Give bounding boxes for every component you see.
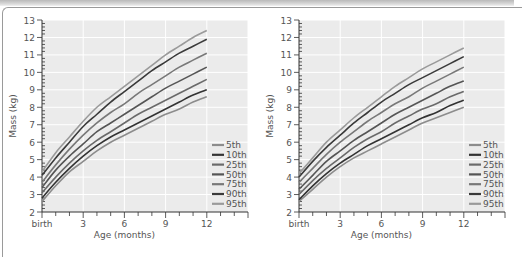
y-tick-label: 10: [281, 68, 293, 78]
x-tick-label: birth: [31, 219, 52, 229]
y-tick-label: 3: [286, 190, 292, 200]
y-tick-label: 5: [29, 155, 35, 165]
y-tick-label: 13: [24, 16, 35, 26]
y-tick-label: 13: [281, 16, 292, 26]
y-tick-label: 9: [286, 85, 292, 95]
legend-label: 75th: [483, 179, 504, 189]
y-tick-label: 4: [286, 173, 292, 183]
legend-label: 90th: [483, 189, 504, 199]
y-tick-label: 2: [286, 208, 292, 218]
legend-label: 25th: [483, 160, 504, 170]
y-tick-label: 11: [24, 50, 35, 60]
x-tick-label: 12: [201, 219, 212, 229]
y-tick-label: 5: [286, 155, 292, 165]
y-tick-label: 12: [281, 33, 292, 43]
y-axis-label: Mass (kg): [8, 94, 18, 137]
x-tick-label: 6: [379, 219, 385, 229]
y-tick-label: 4: [29, 173, 35, 183]
y-tick-label: 10: [24, 68, 36, 78]
y-axis: 2345678910111213Mass (kg): [265, 16, 302, 218]
y-tick-label: 2: [29, 208, 35, 218]
y-tick-label: 6: [286, 138, 292, 148]
y-tick-label: 8: [29, 103, 35, 113]
growth-chart-right: 2345678910111213Mass (kg)birth36912Age (…: [257, 0, 514, 247]
legend-label: 90th: [226, 189, 247, 199]
y-tick-label: 8: [286, 103, 292, 113]
legend-label: 5th: [483, 140, 498, 150]
y-axis-label: Mass (kg): [265, 94, 275, 137]
legend-label: 10th: [483, 150, 504, 160]
y-tick-label: 7: [29, 120, 35, 130]
legend-label: 75th: [226, 179, 247, 189]
y-tick-label: 7: [286, 120, 292, 130]
legend-label: 50th: [226, 170, 247, 180]
growth-chart-left: 2345678910111213Mass (kg)birth36912Age (…: [0, 0, 257, 247]
x-tick-label: 9: [420, 219, 426, 229]
x-axis-label: Age (months): [351, 230, 412, 240]
x-tick-label: 6: [122, 219, 128, 229]
y-tick-label: 11: [281, 50, 292, 60]
y-tick-label: 3: [29, 190, 35, 200]
x-tick-label: 3: [80, 219, 86, 229]
x-axis: birth36912Age (months): [288, 212, 505, 240]
y-axis: 2345678910111213Mass (kg): [8, 16, 45, 218]
legend-label: 50th: [483, 170, 504, 180]
x-axis-label: Age (months): [94, 230, 155, 240]
x-tick-label: birth: [288, 219, 309, 229]
x-tick-label: 3: [337, 219, 343, 229]
legend-label: 10th: [226, 150, 247, 160]
x-tick-label: 9: [163, 219, 169, 229]
legend-label: 95th: [226, 199, 247, 209]
legend-label: 95th: [483, 199, 504, 209]
y-tick-label: 12: [24, 33, 35, 43]
x-tick-label: 12: [458, 219, 469, 229]
x-axis: birth36912Age (months): [31, 212, 248, 240]
y-tick-label: 9: [29, 85, 35, 95]
legend-label: 25th: [226, 160, 247, 170]
y-tick-label: 6: [29, 138, 35, 148]
legend-label: 5th: [226, 140, 241, 150]
